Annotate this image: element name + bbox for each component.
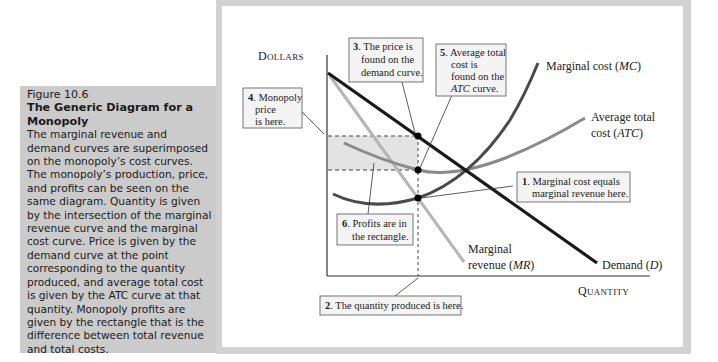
svg-text:demand curve.: demand curve.: [361, 67, 423, 78]
svg-text:1. Marginal cost equals: 1. Marginal cost equals: [522, 176, 620, 187]
mc-mr-intersection-point: [415, 195, 422, 202]
svg-text:ATC curve.: ATC curve.: [450, 83, 498, 94]
svg-text:cost is: cost is: [451, 59, 478, 70]
svg-text:marginal revenue here.: marginal revenue here.: [532, 188, 628, 199]
svg-text:2. The quantity produced is he: 2. The quantity produced is here.: [325, 300, 463, 311]
mc-label: Marginal cost (MC): [546, 59, 641, 73]
price-point: [415, 133, 422, 140]
svg-text:4. Monopoly: 4. Monopoly: [248, 92, 303, 103]
svg-text:the rectangle.: the rectangle.: [352, 231, 409, 242]
x-axis-label: QUANTITY: [578, 284, 629, 298]
callout-3: 3. The price is found on the demand curv…: [349, 38, 423, 82]
callout-5: 5. Average total cost is found on the AT…: [436, 44, 506, 96]
svg-text:found on the: found on the: [361, 54, 414, 65]
svg-text:3. The price is: 3. The price is: [353, 41, 413, 52]
svg-text:6. Profits are in: 6. Profits are in: [342, 218, 407, 229]
atc-label-line2: cost (ATC): [591, 126, 643, 140]
callout-2: 2. The quantity produced is here.: [320, 296, 463, 315]
atc-label: Average total: [591, 110, 656, 124]
demand-label: Demand (D): [602, 258, 662, 272]
svg-text:price: price: [255, 104, 276, 115]
callout-4-leader: [302, 112, 324, 134]
monopoly-diagram: DOLLARS QUANTITY Marginal cost (MC) Aver…: [0, 0, 718, 362]
callout-4: 4. Monopoly price is here.: [243, 88, 303, 128]
mr-label: Marginal: [468, 242, 512, 256]
y-axis-label: DOLLARS: [258, 49, 304, 63]
callout-6: 6. Profits are in the rectangle.: [337, 214, 413, 245]
svg-text:found on the: found on the: [451, 71, 504, 82]
svg-text:5. Average total: 5. Average total: [440, 47, 506, 58]
callout-2-leader: [395, 278, 418, 296]
callout-1: 1. Marginal cost equals marginal revenue…: [517, 172, 630, 202]
svg-text:is here.: is here.: [255, 116, 285, 127]
mr-label-line2: revenue (MR): [468, 258, 534, 272]
callout-6-leader: [368, 163, 374, 214]
